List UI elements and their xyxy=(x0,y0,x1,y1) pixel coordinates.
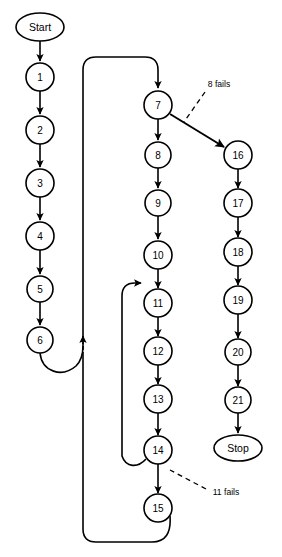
node-9[interactable]: 9 xyxy=(145,190,171,216)
node-10[interactable]: 10 xyxy=(144,241,172,269)
node-8-label: 8 xyxy=(155,150,161,161)
node-14-label: 14 xyxy=(152,445,164,456)
node-16-label: 16 xyxy=(232,150,244,161)
node-3-label: 3 xyxy=(37,178,43,189)
leader-11-fails xyxy=(170,470,206,489)
flowchart-svg: Start 1 2 3 4 5 xyxy=(0,0,282,557)
annotation-8-fails: 8 fails xyxy=(208,79,230,89)
node-21-label: 21 xyxy=(232,395,244,406)
start-label: Start xyxy=(29,21,51,33)
node-7-label: 7 xyxy=(155,100,161,111)
node-layer: Start 1 2 3 4 5 xyxy=(16,13,262,522)
node-13-label: 13 xyxy=(152,394,164,405)
node-15[interactable]: 15 xyxy=(144,494,172,522)
annotation-leader-layer xyxy=(170,92,206,489)
node-16[interactable]: 16 xyxy=(224,141,252,169)
annotation-11-fails: 11 fails xyxy=(213,487,240,497)
node-11[interactable]: 11 xyxy=(144,289,172,317)
node-19-label: 19 xyxy=(232,295,244,306)
node-1-label: 1 xyxy=(37,72,43,83)
node-4-label: 4 xyxy=(37,231,43,242)
node-20[interactable]: 20 xyxy=(225,339,251,365)
node-5-label: 5 xyxy=(37,284,43,295)
node-stop[interactable]: Stop xyxy=(214,435,262,461)
node-17[interactable]: 17 xyxy=(224,189,252,217)
stop-label: Stop xyxy=(227,442,249,454)
node-7[interactable]: 7 xyxy=(144,91,172,119)
node-2[interactable]: 2 xyxy=(26,116,54,144)
node-20-label: 20 xyxy=(232,347,244,358)
node-11-label: 11 xyxy=(153,298,164,309)
node-8[interactable]: 8 xyxy=(145,142,171,168)
node-4[interactable]: 4 xyxy=(26,222,54,250)
node-6-label: 6 xyxy=(37,335,43,346)
node-14[interactable]: 14 xyxy=(144,436,172,464)
node-21[interactable]: 21 xyxy=(225,387,251,413)
node-19[interactable]: 19 xyxy=(224,286,252,314)
node-18[interactable]: 18 xyxy=(224,238,252,266)
node-start[interactable]: Start xyxy=(16,13,64,41)
flowchart-canvas: Start 1 2 3 4 5 xyxy=(0,0,282,557)
node-17-label: 17 xyxy=(232,198,244,209)
node-1[interactable]: 1 xyxy=(26,63,54,91)
node-13[interactable]: 13 xyxy=(144,385,172,413)
node-5[interactable]: 5 xyxy=(27,276,53,302)
node-15-label: 15 xyxy=(152,503,164,514)
edge-7-to-16 xyxy=(170,114,224,147)
edge-14-to-11-loopback xyxy=(122,283,146,465)
node-12-label: 12 xyxy=(152,346,164,357)
node-18-label: 18 xyxy=(232,247,244,258)
edge-layer xyxy=(40,41,238,542)
node-10-label: 10 xyxy=(152,250,164,261)
node-9-label: 9 xyxy=(155,198,161,209)
node-6[interactable]: 6 xyxy=(27,327,53,353)
node-3[interactable]: 3 xyxy=(26,169,54,197)
node-12[interactable]: 12 xyxy=(144,337,172,365)
node-2-label: 2 xyxy=(37,125,43,136)
leader-8-fails xyxy=(184,92,205,122)
